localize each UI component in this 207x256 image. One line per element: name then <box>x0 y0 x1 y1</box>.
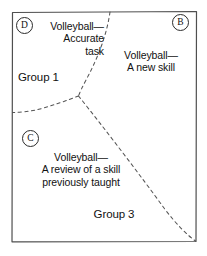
zone-c-label: Volleyball— A review of a skill previous… <box>22 151 140 188</box>
zone-d-group-label: Group 1 <box>18 71 98 83</box>
zone-marker-d: D <box>16 17 33 34</box>
diagram-canvas: D Volleyball— Accurate task Group 1 B Vo… <box>0 0 207 256</box>
divider-left-arc <box>13 96 79 113</box>
zone-marker-c: C <box>22 130 39 147</box>
zone-marker-b: B <box>172 14 189 31</box>
zone-c-group-label: Group 3 <box>86 208 142 220</box>
zone-b-label: Volleyball— A new skill <box>112 49 190 74</box>
zone-d-label: Volleyball— Accurate task <box>32 20 104 57</box>
